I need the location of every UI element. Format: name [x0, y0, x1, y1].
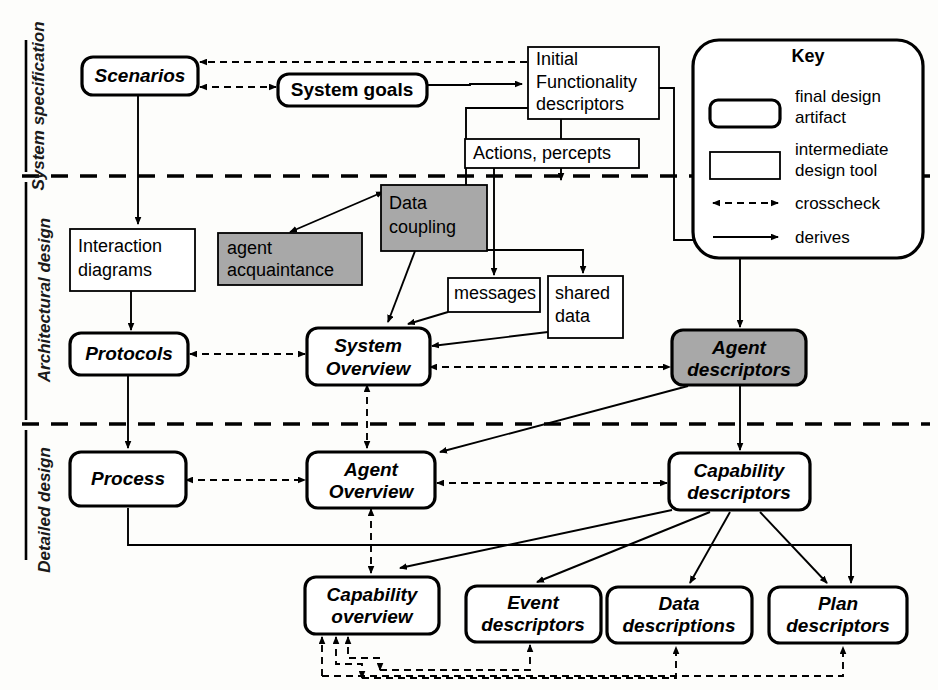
node-shared-data-line1: shared: [555, 283, 610, 303]
node-agent-acquaintance[interactable]: agent acquaintance: [218, 233, 362, 285]
key-final-artifact-line2: artifact: [795, 108, 846, 127]
node-scenarios[interactable]: Scenarios: [82, 57, 198, 95]
node-capability-descriptors[interactable]: Capability descriptors: [669, 453, 810, 510]
svg-text:System specification: System specification: [29, 21, 48, 190]
node-process-label: Process: [91, 468, 165, 489]
node-system-overview[interactable]: System Overview: [307, 328, 430, 385]
node-event-descriptors-line1: Event: [507, 592, 559, 613]
edge-shared-data-to-system-overview: [432, 332, 548, 346]
node-shared-data-line2: data: [555, 306, 591, 326]
node-system-goals-label: System goals: [291, 79, 414, 100]
phase-label-system-specification: System specification: [29, 21, 48, 190]
node-initial-functionality-line1: Initial: [536, 49, 578, 69]
key-final-artifact-glyph: [710, 100, 780, 127]
svg-text:Process: Process: [91, 468, 165, 489]
key-derives-label: derives: [795, 228, 850, 247]
methodology-diagram: System specification Architectural desig…: [0, 0, 938, 690]
phase-label-text: Detailed design: [35, 447, 54, 573]
key-intermediate-glyph: [710, 152, 780, 179]
node-initial-functionality-line3: descriptors: [536, 94, 624, 114]
node-scenarios-label: Scenarios: [95, 65, 186, 86]
edge-capability-descriptors-to-plan-descriptors: [760, 512, 827, 583]
svg-text:Protocols: Protocols: [85, 343, 173, 364]
node-system-goals[interactable]: System goals: [278, 74, 427, 106]
node-capability-overview-line2: overview: [331, 606, 414, 627]
node-process[interactable]: Process: [70, 452, 186, 506]
key-panel: Key final design artifact intermediate d…: [693, 40, 923, 258]
edge-capability-descriptors-to-capability-overview: [400, 510, 672, 568]
edge-system-goals-to-initial-functionality: [427, 84, 522, 85]
diagram-page: System specification Architectural desig…: [0, 0, 938, 690]
node-messages[interactable]: messages: [448, 278, 540, 312]
phase-label-text: Architectural design: [35, 218, 54, 383]
node-capability-overview[interactable]: Capability overview: [305, 577, 439, 634]
node-data-descriptions-line2: descriptions: [623, 615, 736, 636]
node-agent-descriptors[interactable]: Agent descriptors: [672, 330, 806, 385]
node-plan-descriptors[interactable]: Plan descriptors: [769, 587, 907, 643]
node-system-overview-line2: Overview: [326, 358, 412, 379]
edge-capability-descriptors-to-event-descriptors: [537, 512, 710, 582]
node-initial-functionality-line2: Functionality: [536, 72, 637, 92]
edge-capability-descriptors-to-data-descriptions: [690, 512, 730, 583]
node-event-descriptors[interactable]: Event descriptors: [466, 586, 601, 642]
node-data-descriptions-line1: Data: [658, 593, 700, 614]
node-protocols-label: Protocols: [85, 343, 173, 364]
node-agent-acquaintance-line1: agent: [227, 238, 272, 258]
node-interaction-diagrams-line1: Interaction: [78, 236, 162, 256]
node-system-overview-line1: System: [334, 335, 402, 356]
key-crosscheck-label: crosscheck: [795, 194, 881, 213]
node-agent-acquaintance-line2: acquaintance: [227, 260, 334, 280]
svg-text:Scenarios: Scenarios: [95, 65, 186, 86]
node-protocols[interactable]: Protocols: [70, 333, 188, 375]
node-data-descriptions[interactable]: Data descriptions: [607, 587, 752, 643]
node-data-coupling-line2: coupling: [389, 217, 456, 237]
svg-text:System goals: System goals: [291, 79, 414, 100]
node-agent-descriptors-line2: descriptors: [687, 359, 790, 380]
node-event-descriptors-line2: descriptors: [481, 614, 584, 635]
node-agent-overview-line2: Overview: [329, 481, 415, 502]
phase-label-text: System specification: [29, 21, 48, 190]
edge-agent-descriptors-to-agent-overview: [440, 386, 688, 452]
node-capability-overview-line1: Capability: [327, 584, 419, 605]
node-data-coupling-line1: Data: [389, 193, 428, 213]
node-capability-descriptors-line2: descriptors: [687, 482, 790, 503]
edge-data-coupling-to-agent-acquaintance: [290, 192, 383, 232]
node-actions-percepts-label: Actions, percepts: [473, 143, 611, 163]
node-agent-overview-line1: Agent: [343, 459, 399, 480]
key-title: Key: [791, 46, 824, 66]
key-intermediate-line1: intermediate: [795, 140, 889, 159]
node-interaction-diagrams-line2: diagrams: [78, 260, 152, 280]
node-agent-descriptors-line1: Agent: [711, 337, 767, 358]
node-shared-data[interactable]: shared data: [548, 276, 623, 338]
node-initial-functionality-descriptors[interactable]: Initial Functionality descriptors: [528, 47, 659, 119]
edge-messages-to-system-overview: [408, 312, 448, 324]
node-messages-label: messages: [454, 283, 536, 303]
node-capability-descriptors-line1: Capability: [694, 460, 786, 481]
phase-label-detailed-design: Detailed design: [35, 447, 54, 573]
key-intermediate-line2: design tool: [795, 161, 877, 180]
svg-text:Architectural design: Architectural design: [35, 218, 54, 383]
phase-label-architectural-design: Architectural design: [35, 218, 54, 383]
node-agent-overview[interactable]: Agent Overview: [307, 452, 435, 508]
node-actions-percepts[interactable]: Actions, percepts: [465, 139, 639, 168]
svg-text:Detailed design: Detailed design: [35, 447, 54, 573]
node-data-coupling[interactable]: Data coupling: [381, 185, 487, 251]
node-plan-descriptors-line1: Plan: [818, 593, 858, 614]
edge-data-coupling-to-system-overview: [388, 251, 415, 322]
key-final-artifact-line1: final design: [795, 87, 881, 106]
node-plan-descriptors-line2: descriptors: [786, 615, 889, 636]
node-interaction-diagrams[interactable]: Interaction diagrams: [70, 229, 195, 291]
edge-process-to-plan-descriptors: [128, 508, 851, 583]
